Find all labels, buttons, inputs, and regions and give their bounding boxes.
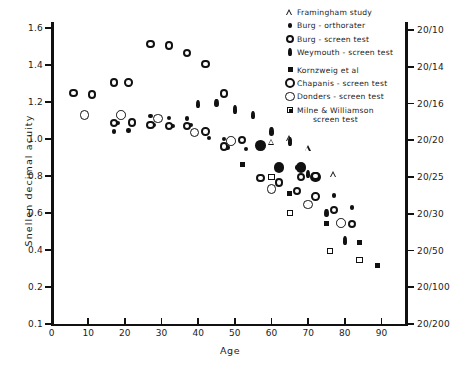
legend-item-label: Milne & Williamson screen test	[297, 104, 374, 125]
data-point	[201, 127, 209, 135]
data-point	[196, 100, 201, 109]
data-point	[165, 122, 173, 130]
data-point	[124, 78, 132, 86]
legend-marker-small-filled-circle-icon	[283, 19, 297, 32]
data-point	[311, 172, 319, 180]
legend-item[interactable]: Burg - screen test	[283, 33, 408, 46]
marker-filled-teardrop	[288, 48, 293, 57]
data-point	[311, 192, 319, 200]
data-point	[275, 178, 283, 186]
data-point	[274, 162, 284, 172]
legend-item-label: Donders - screen test	[297, 90, 384, 102]
data-point	[336, 218, 346, 228]
marker-open-circle-thick	[286, 35, 294, 43]
legend: Framingham studyBurg - orthoraterBurg - …	[283, 6, 408, 117]
marker-open-triangle	[286, 9, 292, 15]
data-point	[112, 129, 116, 133]
data-point	[324, 221, 329, 226]
data-point	[233, 105, 238, 114]
legend-item-label: Weymouth - screen test	[297, 46, 393, 58]
legend-item[interactable]: Milne & Williamson screen test	[283, 104, 408, 117]
legend-marker-open-triangle-icon	[283, 6, 297, 19]
data-point	[244, 147, 248, 151]
data-point	[330, 171, 336, 177]
y-axis-title: Snellen decimal acuity	[23, 86, 34, 276]
data-point	[126, 128, 130, 132]
legend-item[interactable]: Chapanis - screen test	[283, 77, 408, 90]
data-point	[207, 136, 211, 140]
marker-small-filled-square	[288, 67, 293, 72]
legend-item-label: Burg - screen test	[297, 33, 369, 45]
legend-item[interactable]: Weymouth - screen test	[283, 46, 408, 59]
data-point	[146, 121, 154, 129]
legend-marker-filled-teardrop-icon	[283, 46, 297, 59]
data-point	[69, 89, 77, 97]
data-point	[183, 49, 191, 57]
data-point	[201, 60, 209, 68]
data-point	[268, 174, 274, 180]
legend-marker-large-open-circle-icon	[283, 77, 297, 90]
data-point	[343, 236, 348, 245]
data-point	[220, 89, 228, 97]
legend-marker-open-circle-thick-icon	[283, 33, 297, 46]
data-point	[226, 136, 236, 146]
data-point	[255, 140, 265, 150]
data-point	[88, 90, 96, 98]
data-point	[238, 136, 246, 144]
data-point	[327, 248, 333, 254]
data-point	[153, 114, 163, 124]
data-point	[128, 118, 136, 126]
data-point	[330, 206, 338, 214]
data-point	[305, 145, 311, 151]
data-point	[324, 209, 329, 218]
data-point	[148, 114, 152, 118]
marker-open-circle-thin	[285, 92, 295, 102]
legend-item[interactable]: Kornzweig et al	[283, 64, 408, 77]
data-point	[222, 137, 226, 141]
data-point	[110, 119, 118, 127]
data-point	[375, 263, 380, 268]
data-point	[287, 210, 293, 216]
legend-item-label: Chapanis - screen test	[297, 77, 387, 89]
data-point	[297, 173, 305, 181]
data-point	[167, 116, 171, 120]
legend-item-label: Kornzweig et al	[297, 64, 359, 76]
data-point	[165, 41, 173, 49]
data-point	[303, 200, 313, 210]
legend-item[interactable]: Burg - orthorater	[283, 19, 408, 32]
data-point	[287, 191, 292, 196]
legend-marker-open-circle-thin-icon	[283, 90, 297, 103]
data-point	[267, 184, 277, 194]
data-point	[190, 128, 200, 138]
data-point	[350, 205, 354, 209]
data-point	[256, 174, 264, 182]
data-point	[80, 110, 90, 120]
data-point	[332, 193, 336, 197]
acuity-vs-age-scatter-figure: 0.10.20.40.60.81.01.21.41.620/1020/1420/…	[0, 0, 468, 369]
data-point	[240, 162, 245, 167]
legend-item[interactable]: Framingham study	[283, 6, 408, 19]
data-point	[251, 111, 256, 120]
marker-small-filled-circle	[288, 23, 292, 27]
data-point	[269, 127, 274, 136]
data-point	[296, 162, 306, 172]
data-point	[288, 137, 293, 146]
legend-item[interactable]: Donders - screen test	[283, 90, 408, 103]
legend-item-label: Burg - orthorater	[297, 19, 365, 31]
data-point	[110, 78, 118, 86]
data-point	[185, 116, 189, 120]
data-point	[146, 40, 154, 48]
data-point	[357, 240, 362, 245]
data-point	[348, 220, 356, 228]
legend-item-label: Framingham study	[297, 6, 372, 18]
legend-marker-small-filled-square-icon	[283, 64, 297, 77]
data-point	[116, 110, 126, 120]
legend-marker-open-square-pip-icon	[283, 104, 297, 117]
data-point	[356, 257, 362, 263]
x-axis-title: Age	[0, 345, 460, 356]
marker-large-open-circle	[285, 78, 296, 89]
data-point	[268, 139, 274, 145]
marker-open-square-pip	[287, 107, 293, 113]
data-point	[214, 99, 219, 108]
data-point	[293, 187, 301, 195]
